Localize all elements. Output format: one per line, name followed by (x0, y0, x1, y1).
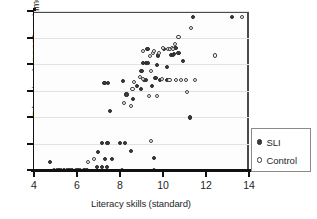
data-point-control (141, 77, 145, 81)
filled-circle-icon (257, 139, 262, 144)
data-point-control (173, 42, 177, 46)
data-point-control (155, 94, 159, 98)
data-point-sli (106, 81, 110, 85)
data-point-sli (150, 84, 154, 88)
data-point-control (213, 53, 217, 57)
x-axis-label: Literacy skills (standard) (34, 198, 248, 209)
data-point-sli (153, 76, 157, 80)
x-axis-tick (205, 170, 207, 177)
legend-item-sli[interactable]: SLI (257, 136, 281, 148)
data-point-control (176, 35, 180, 39)
x-axis-tick-label: 8 (108, 179, 132, 191)
data-point-control (92, 157, 96, 161)
x-axis-tick-label: 12 (194, 179, 218, 191)
gridline (34, 11, 249, 12)
x-axis-spine (31, 169, 251, 172)
data-point-sli (191, 15, 195, 19)
x-axis-tick (76, 170, 78, 177)
data-point-sli (124, 92, 128, 96)
gridline (34, 144, 249, 145)
y-axis-tick (27, 10, 34, 12)
y-axis-tick (27, 143, 34, 145)
legend: SLI Control (251, 128, 311, 172)
x-axis-tick (248, 170, 250, 177)
open-circle-icon (257, 157, 262, 162)
x-axis-tick-label: 4 (22, 179, 46, 191)
data-point-sli (105, 141, 109, 145)
data-point-sli (188, 115, 192, 119)
x-axis-tick (119, 170, 121, 177)
legend-item-control[interactable]: Control (257, 154, 297, 166)
data-point-control (240, 15, 244, 19)
x-axis-tick-label: 6 (65, 179, 89, 191)
y-axis-tick (27, 37, 34, 39)
y-axis-tick (27, 116, 34, 118)
data-point-control (185, 90, 189, 94)
x-axis-tick (33, 170, 35, 177)
gridline (34, 38, 249, 39)
legend-label-sli: SLI (266, 137, 280, 148)
x-axis-tick-label: 10 (151, 179, 175, 191)
scatter-plot-figure: Educational (GCSE) attainments 468101214… (0, 0, 317, 219)
y-axis-tick (27, 63, 34, 65)
data-point-sli (230, 15, 234, 19)
data-point-sli (123, 141, 127, 145)
gridline (34, 117, 249, 118)
data-point-sli (121, 79, 125, 83)
x-axis-tick (162, 170, 164, 177)
x-axis-tick-label: 14 (237, 179, 261, 191)
legend-label-control: Control (266, 155, 297, 166)
y-axis-tick (27, 90, 34, 92)
data-point-control (130, 87, 134, 91)
data-point-sli (176, 51, 180, 55)
